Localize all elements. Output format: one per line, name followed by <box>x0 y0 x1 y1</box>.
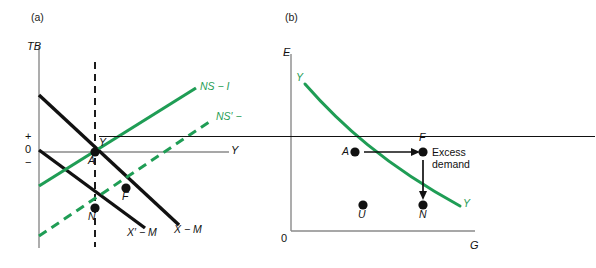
panel-b-vertical-axis-label: E <box>283 47 290 59</box>
panel-a-label-x-minus-m: X − M <box>174 224 202 235</box>
panel-b-point-a <box>350 147 359 156</box>
panel-a-label-x-prime-minus-m: X′ − M <box>127 227 157 238</box>
panel-b-curve-label-top: Y <box>296 72 303 83</box>
panel-a-vertical-axis-label: TB <box>27 41 41 53</box>
panel-b-point-u-label: U <box>358 209 366 220</box>
panel-a-potential-output-letter: Y <box>99 136 106 148</box>
panel-a-point-f-label: F <box>122 191 128 202</box>
panel-a-plus-label: + <box>25 131 31 143</box>
panel-b-tag: (b) <box>285 12 298 23</box>
panel-a-label-ns-prime-minus-i: NS′ − <box>216 111 242 122</box>
panel-b-point-f-label: F <box>419 132 425 143</box>
panel-a-zero-label: 0 <box>25 144 31 156</box>
panel-a-point-n-label: N <box>88 211 96 222</box>
panel-a-potential-output-overbar <box>99 136 595 137</box>
panel-a-curve-x-minus-m <box>39 95 179 225</box>
panel-b-excess-demand-line1: Excess <box>432 146 470 158</box>
panel-b-horizontal-axis-label: G <box>470 240 479 252</box>
panel-b-arrow-f-to-n-head <box>419 191 427 200</box>
panel-b-point-n-label: N <box>419 209 427 220</box>
panel-b-point-a-label: A <box>342 146 349 157</box>
panel-a-tag: (a) <box>31 12 44 23</box>
panel-a-label-ns-minus-i: NS − I <box>200 81 229 92</box>
panel-b-point-f <box>418 147 427 156</box>
panel-a-point-a-label: A <box>88 155 95 166</box>
panel-a-minus-label: − <box>25 157 31 169</box>
panel-a-horizontal-axis-label: Y <box>231 145 238 157</box>
panel-b-curve-label-bottom: Y <box>463 198 470 209</box>
panel-b-origin-label: 0 <box>281 233 287 245</box>
panel-b-excess-demand-line2: demand <box>432 158 470 170</box>
panel-b-excess-demand-annotation: Excess demand <box>432 146 470 170</box>
